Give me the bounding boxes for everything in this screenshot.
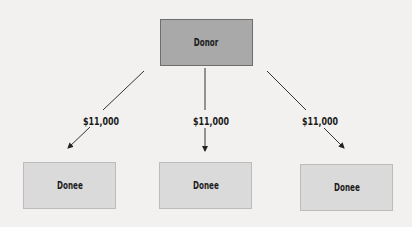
donee-box-3: Donee: [300, 164, 393, 211]
edge-arrow-3: [324, 128, 344, 148]
donee-label-1: Donee: [57, 180, 83, 191]
gift-amount-label-3: $11,000: [302, 115, 338, 128]
donee-label-2: Donee: [193, 180, 219, 191]
donor-label: Donor: [194, 37, 219, 48]
edge-line-3: [267, 71, 306, 110]
donee-box-2: Donee: [159, 162, 252, 209]
gift-amount-label-1: $11,000: [83, 115, 119, 128]
edge-arrow-1: [68, 127, 90, 148]
gift-amount-label-2: $11,000: [193, 115, 229, 128]
edge-line-1: [103, 71, 144, 110]
donee-box-1: Donee: [23, 162, 116, 209]
donor-box: Donor: [160, 19, 253, 66]
donee-label-3: Donee: [334, 182, 360, 193]
